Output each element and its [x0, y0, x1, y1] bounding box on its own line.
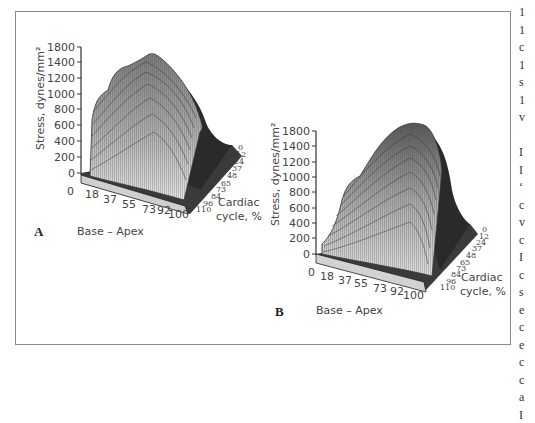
panel-a-x-label: Base – Apex [77, 225, 144, 238]
svg-text:400: 400 [289, 217, 310, 230]
panel-b-mesh [322, 123, 442, 276]
svg-text:55: 55 [122, 198, 136, 211]
panel-b-chart: 1800 1400 1200 1000 800 600 400 200 0 St… [269, 123, 506, 302]
svg-text:37: 37 [338, 274, 352, 287]
svg-text:55: 55 [354, 277, 368, 290]
panel-a-y-label: Stress, dynes/mm² [34, 47, 47, 150]
svg-text:0: 0 [308, 266, 315, 279]
panel-a-z-label-1: Cardiac [218, 196, 260, 209]
svg-text:1200: 1200 [282, 156, 310, 169]
panel-b-x-label: Base – Apex [316, 304, 383, 317]
svg-text:0: 0 [68, 167, 75, 180]
svg-text:73: 73 [373, 282, 387, 295]
svg-text:400: 400 [54, 135, 75, 148]
panel-b-z-label-1: Cardiac [461, 271, 503, 284]
clipped-body-text: 1 1 c 1 s 1 v I I ‘ c v c I c s e c e c … [519, 4, 535, 423]
svg-text:800: 800 [289, 186, 310, 199]
panel-a-y-ticks: 1800 1400 1200 1000 800 600 400 200 0 [47, 41, 81, 180]
svg-text:0: 0 [67, 185, 74, 198]
panel-b-y-label: Stress, dynes/mm² [269, 123, 282, 226]
svg-text:18: 18 [85, 188, 99, 201]
panel-a-chart: 1800 1400 1200 1000 800 600 400 200 0 St… [34, 41, 262, 223]
svg-text:1800: 1800 [47, 41, 75, 54]
svg-text:1800: 1800 [282, 125, 310, 138]
svg-text:600: 600 [289, 202, 310, 215]
svg-text:1000: 1000 [282, 171, 310, 184]
svg-text:1400: 1400 [47, 56, 75, 69]
svg-text:110: 110 [196, 205, 211, 214]
svg-text:37: 37 [103, 193, 117, 206]
svg-text:92: 92 [390, 285, 404, 298]
svg-text:600: 600 [54, 119, 75, 132]
svg-text:200: 200 [289, 232, 310, 245]
panel-b-y-ticks: 1800 1400 1200 1000 800 600 400 200 0 [282, 125, 316, 261]
panel-a-z-label-2: cycle, % [216, 210, 262, 223]
panel-b-letter: B [275, 304, 284, 320]
svg-text:1000: 1000 [47, 88, 75, 101]
svg-text:0: 0 [303, 248, 310, 261]
svg-text:1200: 1200 [47, 72, 75, 85]
panel-a-letter: A [34, 224, 43, 240]
svg-text:100: 100 [403, 289, 424, 302]
svg-text:18: 18 [320, 270, 334, 283]
svg-text:100: 100 [168, 208, 189, 221]
panel-b-z-label-2: cycle, % [460, 285, 506, 298]
svg-text:110: 110 [440, 283, 455, 292]
svg-text:200: 200 [54, 151, 75, 164]
svg-text:73: 73 [142, 203, 156, 216]
svg-text:800: 800 [54, 103, 75, 116]
svg-text:1400: 1400 [282, 140, 310, 153]
